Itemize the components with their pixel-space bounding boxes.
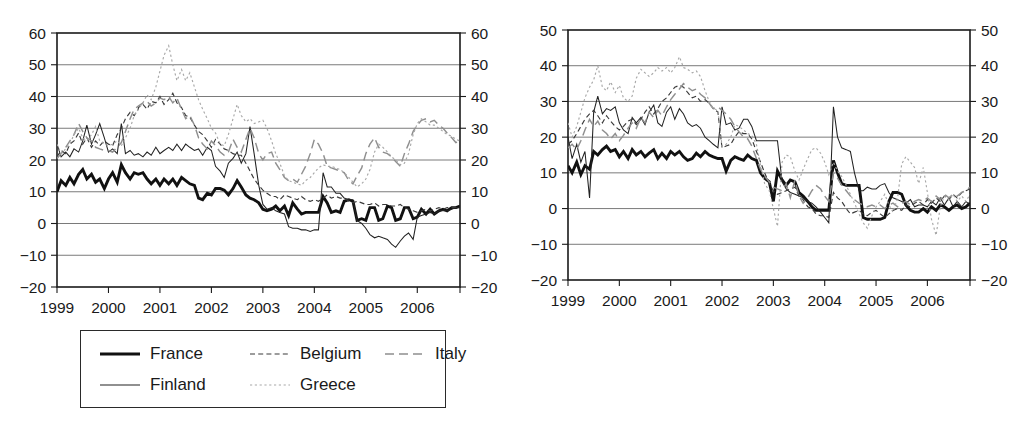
ytick-label-right: 60 bbox=[471, 25, 489, 42]
ytick-label-right: 20 bbox=[471, 152, 489, 169]
legend-item-belgium[interactable]: Belgium bbox=[249, 344, 384, 364]
legend-item-france[interactable]: France bbox=[99, 344, 249, 364]
ytick-label-right: 30 bbox=[471, 120, 489, 137]
ytick-label-right: 40 bbox=[981, 57, 999, 74]
ytick-label-left: −10 bbox=[531, 236, 558, 253]
legend-left: FranceBelgiumItalyFinlandGreece bbox=[80, 330, 446, 408]
legend-row: FranceBelgiumItaly bbox=[99, 338, 445, 369]
ytick-label-right: 10 bbox=[981, 164, 999, 181]
series-line-france bbox=[57, 165, 460, 221]
ytick-label-left: −10 bbox=[20, 247, 47, 264]
legend-item-greece[interactable]: Greece bbox=[249, 375, 384, 395]
xtick-label: 1999 bbox=[551, 292, 585, 309]
ytick-label-left: 0 bbox=[37, 215, 46, 232]
ytick-label-right: 50 bbox=[981, 22, 999, 39]
legend-label: Greece bbox=[300, 375, 356, 395]
series-line-austria bbox=[568, 84, 970, 209]
ytick-label-right: −10 bbox=[471, 247, 498, 264]
ytick-label-right: 20 bbox=[981, 129, 999, 146]
ytick-label-right: 0 bbox=[981, 200, 990, 217]
ytick-label-left: 50 bbox=[540, 22, 558, 39]
ytick-label-left: −20 bbox=[531, 272, 558, 289]
series-line-italy bbox=[57, 97, 460, 184]
xtick-label: 2005 bbox=[859, 292, 893, 309]
legend-label: Italy bbox=[435, 344, 466, 364]
ytick-label-left: 50 bbox=[29, 56, 47, 73]
ytick-label-right: 10 bbox=[471, 183, 489, 200]
legend-swatch-thick-solid-icon bbox=[99, 347, 141, 361]
ytick-label-left: 30 bbox=[540, 93, 558, 110]
legend-label: Belgium bbox=[300, 344, 361, 364]
legend-row: FinlandGreece bbox=[99, 369, 445, 400]
xtick-label: 2004 bbox=[297, 299, 332, 316]
xtick-label: 2001 bbox=[653, 292, 687, 309]
ytick-label-left: 10 bbox=[29, 183, 47, 200]
xtick-label: 2006 bbox=[910, 292, 944, 309]
chart-panel-right: 5050404030302020101000−10−10−20−20199920… bbox=[515, 0, 1029, 429]
ytick-label-left: 20 bbox=[29, 152, 47, 169]
chart-figure: 60605050404030302020101000−10−10−20−2019… bbox=[0, 0, 1029, 429]
ytick-label-right: 40 bbox=[471, 88, 489, 105]
ytick-label-right: −20 bbox=[471, 279, 498, 296]
ytick-label-left: 40 bbox=[540, 57, 558, 74]
legend-left-rows: FranceBelgiumItalyFinlandGreece bbox=[81, 331, 445, 407]
ytick-label-left: −20 bbox=[20, 279, 47, 296]
series-group bbox=[57, 46, 460, 248]
legend-item-finland[interactable]: Finland bbox=[99, 375, 249, 395]
legend-swatch-thin-solid-icon bbox=[99, 378, 141, 392]
legend-swatch-dashed-icon bbox=[249, 347, 291, 361]
xtick-label: 2002 bbox=[705, 292, 739, 309]
xtick-label: 1999 bbox=[40, 299, 74, 316]
ytick-label-left: 40 bbox=[29, 88, 47, 105]
ytick-label-right: 30 bbox=[981, 93, 999, 110]
xtick-label: 2003 bbox=[246, 299, 280, 316]
legend-label: France bbox=[150, 344, 203, 364]
xtick-label: 2002 bbox=[194, 299, 228, 316]
line-chart-right: 5050404030302020101000−10−10−20−20199920… bbox=[515, 0, 1029, 320]
xtick-label: 2000 bbox=[602, 292, 637, 309]
ytick-label-left: 60 bbox=[29, 25, 47, 42]
legend-swatch-long-dash-icon bbox=[384, 347, 426, 361]
legend-label: Finland bbox=[150, 375, 206, 395]
ytick-label-right: 0 bbox=[471, 215, 480, 232]
ytick-label-left: 10 bbox=[540, 164, 558, 181]
line-chart-left: 60605050404030302020101000−10−10−20−2019… bbox=[0, 0, 515, 320]
ytick-label-left: 30 bbox=[29, 120, 47, 137]
ytick-label-left: 20 bbox=[540, 129, 558, 146]
xtick-label: 2003 bbox=[756, 292, 790, 309]
ytick-label-right: 50 bbox=[471, 56, 489, 73]
ytick-label-right: −20 bbox=[981, 272, 1008, 289]
xtick-label: 2005 bbox=[349, 299, 383, 316]
xtick-label: 2006 bbox=[400, 299, 434, 316]
series-line-spain bbox=[568, 85, 970, 217]
legend-swatch-dotted-icon bbox=[249, 378, 291, 392]
xtick-label: 2001 bbox=[143, 299, 177, 316]
chart-panel-left: 60605050404030302020101000−10−10−20−2019… bbox=[0, 0, 515, 429]
ytick-label-right: −10 bbox=[981, 236, 1008, 253]
legend-item-italy[interactable]: Italy bbox=[384, 344, 494, 364]
xtick-label: 2004 bbox=[807, 292, 842, 309]
ytick-label-left: 0 bbox=[548, 200, 557, 217]
xtick-label: 2000 bbox=[91, 299, 126, 316]
